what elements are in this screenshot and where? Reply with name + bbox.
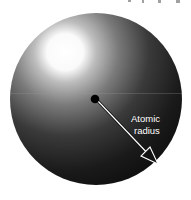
atomic-radius-label-line1: Atomic [131,113,160,124]
atom-diagram: Atomic radius [0,0,191,200]
cropped-text-fragments [128,0,180,3]
atomic-radius-label-line2: radius [134,125,160,136]
nucleus-dot-icon [91,95,100,104]
